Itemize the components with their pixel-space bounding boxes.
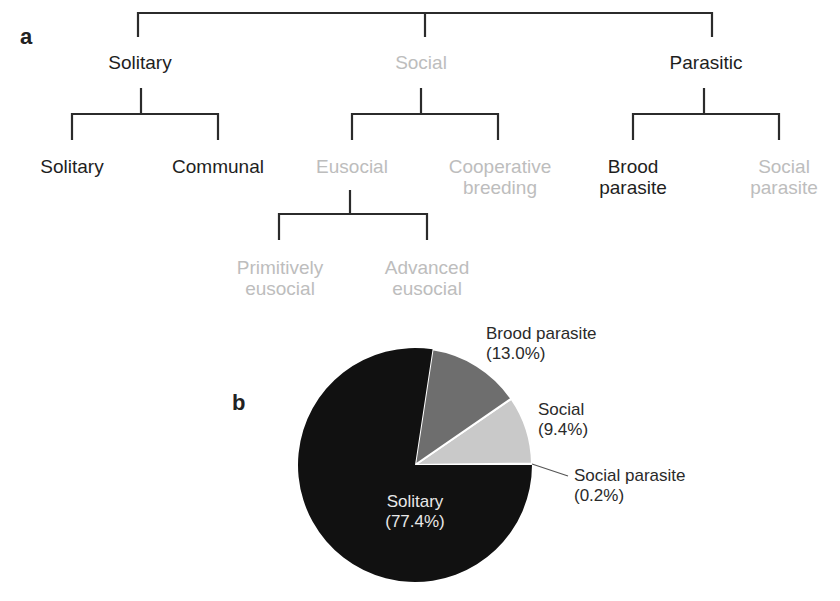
pie-label-solitary: Solitary (77.4%)	[375, 492, 455, 532]
pie-label-solitary-pct: (77.4%)	[375, 512, 455, 532]
pie-label-social-name: Social	[538, 400, 588, 420]
pie-label-social: Social (9.4%)	[538, 400, 588, 440]
pie-label-social-parasite-pct: (0.2%)	[574, 486, 686, 506]
pie-label-brood-parasite: Brood parasite (13.0%)	[486, 324, 597, 364]
pie-label-brood-parasite-pct: (13.0%)	[486, 344, 597, 364]
pie-label-social-pct: (9.4%)	[538, 420, 588, 440]
pie-label-social-parasite: Social parasite (0.2%)	[574, 466, 686, 506]
pie-label-brood-parasite-name: Brood parasite	[486, 324, 597, 344]
pie-label-solitary-name: Solitary	[375, 492, 455, 512]
social-parasite-leader-line	[532, 464, 568, 476]
pie-label-social-parasite-name: Social parasite	[574, 466, 686, 486]
